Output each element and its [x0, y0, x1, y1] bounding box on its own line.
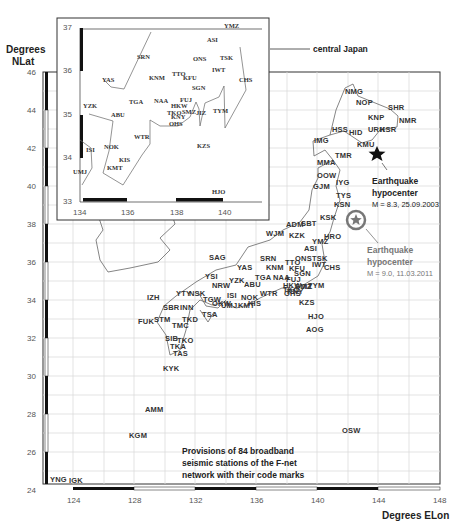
station-label-yas: YAS: [102, 76, 114, 83]
x-tick: 148: [433, 496, 446, 505]
station-label-knm: KNM: [266, 263, 284, 272]
station-label-asi: ASI: [304, 244, 317, 253]
station-label-srn: SRN: [260, 254, 276, 263]
station-label-ksk: KSK: [320, 213, 336, 222]
station-label-iyg: IYG: [336, 178, 350, 187]
y-tick: 28: [27, 410, 36, 419]
y-tick: 32: [27, 334, 36, 343]
station-label-abu: ABU: [111, 111, 125, 118]
station-label-hid: HID: [349, 128, 363, 137]
inset-map-frame: [57, 18, 269, 220]
station-label-aog: AOG: [306, 325, 324, 334]
station-label-kis: KIS: [119, 156, 130, 163]
inset-y-tick: 35: [63, 110, 72, 119]
eq-2011-title-1: Earthquake: [367, 244, 433, 256]
y-axis-scale-bar: [45, 72, 48, 484]
eq-2003-detail: M = 8.3, 25.09.2003: [372, 199, 439, 211]
station-label-tmc: TMC: [172, 321, 189, 330]
y-tick: 24: [27, 486, 36, 495]
station-label-sgn: SGN: [192, 84, 205, 91]
station-label-shr: SHR: [388, 103, 404, 112]
station-label-ymz: YMZ: [224, 22, 239, 29]
station-label-ysi: YSI: [205, 272, 218, 281]
station-label-chs: CHS: [324, 263, 340, 272]
station-label-kzk: KZK: [289, 231, 305, 240]
caption-line-2: seismic stations of the F-net: [182, 457, 304, 469]
station-label-kmt: KMT: [107, 164, 123, 171]
station-label-yty: YTY: [176, 289, 191, 298]
eq-2003-title-1: Earthquake: [372, 175, 439, 187]
station-label-tsa: TSA: [202, 310, 218, 319]
station-label-img: IMG: [314, 136, 329, 145]
station-label-mma: MMA: [317, 158, 336, 167]
station-label-srn: SRN: [137, 53, 150, 60]
station-label-ksr: KSR: [380, 125, 396, 134]
inset-x-tick: 138: [170, 208, 183, 217]
inset-y-tick: 33: [63, 197, 72, 206]
station-label-hjo: HJO: [308, 312, 324, 321]
earthquake-2011-circled-star-icon: [347, 211, 365, 229]
earthquake-2011-annotation: Earthquake hypocenter M = 9.0, 11.03.201…: [367, 244, 433, 280]
eq-2011-detail: M = 9.0, 11.03.2011: [367, 268, 433, 280]
station-label-sbr: SBR: [163, 303, 179, 312]
station-label-kmt: KMT: [238, 301, 255, 310]
station-label-nop: NOP: [356, 98, 373, 107]
x-axis-scale-bar: [73, 487, 440, 490]
caption-line-3: network with their code marks: [182, 469, 304, 481]
inset-y-tick: 36: [63, 66, 72, 75]
station-label-tas: TAS: [173, 349, 188, 358]
y-axis-title: Degrees NLat: [6, 44, 45, 68]
station-label-tsk: TSK: [220, 54, 233, 61]
station-label-oow: OOW: [317, 171, 336, 180]
station-label-knm: KNM: [149, 74, 165, 81]
station-label-stm: STM: [154, 315, 170, 324]
station-label-hjo: HJO: [212, 188, 225, 195]
station-label-yas: YAS: [237, 263, 252, 272]
y-tick: 38: [27, 220, 36, 229]
station-label-nsk: NSK: [189, 289, 205, 298]
map-caption: Provisions of 84 broadband seismic stati…: [182, 445, 304, 481]
y-tick: 36: [27, 258, 36, 267]
x-tick: 136: [250, 496, 263, 505]
station-label-kny: KNY: [171, 113, 185, 120]
station-label-ohs: OHS: [284, 289, 301, 298]
station-label-kyk: KYK: [163, 364, 179, 373]
y-tick: 30: [27, 372, 36, 381]
station-label-tys: TYS: [336, 191, 351, 200]
x-tick: 144: [372, 496, 385, 505]
inset-label: central Japan: [313, 43, 368, 55]
station-label-isi: ISI: [86, 146, 95, 153]
inset-y-tick: 34: [63, 153, 72, 162]
caption-line-1: Provisions of 84 broadband: [182, 445, 304, 457]
station-label-asi: ASI: [207, 36, 218, 43]
inset-y-tick: 37: [63, 23, 72, 32]
y-tick: 44: [27, 106, 36, 115]
arrow-2003: [382, 163, 387, 170]
station-label-kzs: KZS: [197, 142, 210, 149]
station-label-inn: INN: [180, 303, 194, 312]
station-label-nmg: NMG: [345, 87, 363, 96]
station-label-yzk: YZK: [229, 276, 245, 285]
station-label-izh: IZH: [147, 293, 160, 302]
station-label-yng: YNG: [50, 475, 67, 484]
station-label-jiz: JIZ: [196, 109, 206, 116]
station-label-gjm: GJM: [313, 182, 330, 191]
station-label-kfu: KFU: [183, 74, 197, 81]
station-label-nmr: NMR: [399, 116, 417, 125]
station-label-yzk: YZK: [83, 102, 97, 109]
station-label-amm: AMM: [145, 405, 164, 414]
station-label-kzs: KZS: [299, 298, 315, 307]
station-label-osw: OSW: [342, 426, 361, 435]
station-label-sbt: SBT: [301, 219, 317, 228]
station-label-wtr: WTR: [260, 289, 278, 298]
inset-x-tick: 134: [73, 208, 86, 217]
station-label-iwt: IWT: [212, 66, 225, 73]
station-label-fuk: FUK: [138, 317, 154, 326]
inset-x-tick: 140: [218, 208, 231, 217]
station-label-abu: ABU: [244, 280, 261, 289]
station-label-nok: NOK: [104, 143, 119, 150]
station-label-hss: HSS: [332, 125, 348, 134]
station-label-umj: UMJ: [73, 168, 87, 175]
station-label-okw: OKW: [212, 299, 231, 308]
station-label-wjm: WJM: [266, 229, 284, 238]
